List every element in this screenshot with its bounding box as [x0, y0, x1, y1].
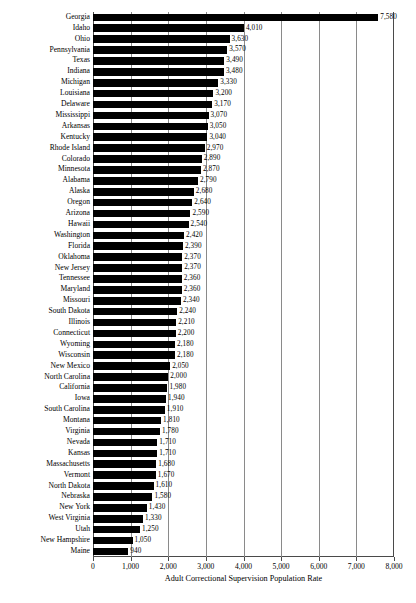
category-label: Illinois: [68, 316, 90, 327]
bar-value-label: 1,780: [162, 426, 179, 437]
bar-row: Delaware3,170: [93, 99, 394, 110]
bar-row: Tennessee2,360: [93, 274, 394, 285]
bar: [93, 319, 176, 327]
bar-value-label: 2,970: [207, 143, 224, 154]
bar-value-label: 3,480: [226, 66, 243, 77]
bar: [93, 79, 218, 87]
category-label: Iowa: [75, 392, 90, 403]
bar-row: Washington2,420: [93, 230, 394, 241]
category-label: New Jersey: [55, 262, 90, 273]
bar: [93, 57, 224, 65]
bar-value-label: 3,330: [220, 77, 237, 88]
x-tick: [131, 557, 132, 561]
category-label: Wyoming: [60, 338, 90, 349]
bar: [93, 548, 128, 556]
bar-value-label: 1,580: [154, 491, 171, 502]
bar-row: New Jersey2,370: [93, 263, 394, 274]
bar-row: Hawaii2,540: [93, 219, 394, 230]
category-label: Virginia: [65, 425, 90, 436]
bar-value-label: 3,040: [209, 132, 226, 143]
bar-value-label: 2,210: [178, 317, 195, 328]
bar-row: Connecticut2,200: [93, 328, 394, 339]
bar: [93, 450, 157, 458]
x-tick: [356, 557, 357, 561]
bar-row: Nebraska1,580: [93, 492, 394, 503]
bar-row: Texas3,490: [93, 56, 394, 67]
x-tick: [319, 557, 320, 561]
bar-value-label: 3,170: [214, 99, 231, 110]
bar-row: Montana1,810: [93, 415, 394, 426]
category-label: Maryland: [60, 283, 90, 294]
category-label: Alabama: [63, 174, 90, 185]
bar: [93, 188, 194, 196]
category-label: Minnesota: [58, 163, 90, 174]
category-label: Idaho: [73, 22, 90, 33]
bar: [93, 90, 213, 98]
bar-row: Oklahoma2,370: [93, 252, 394, 263]
bar-value-label: 1,330: [145, 513, 162, 524]
bar-value-label: 2,180: [177, 339, 194, 350]
bar: [93, 406, 165, 414]
bar-value-label: 3,070: [211, 110, 228, 121]
bar: [93, 286, 182, 294]
bar-row: Minnesota2,870: [93, 165, 394, 176]
bar-value-label: 1,710: [159, 437, 176, 448]
bar-value-label: 2,050: [172, 361, 189, 372]
bar: [93, 264, 182, 272]
bar-value-label: 1,910: [167, 404, 184, 415]
category-label: Kentucky: [60, 131, 90, 142]
bar: [93, 428, 160, 436]
x-tick-label: 3,000: [197, 562, 214, 571]
category-label: Vermont: [64, 469, 90, 480]
category-label: Connecticut: [53, 327, 90, 338]
category-label: Louisiana: [60, 87, 90, 98]
category-label: Mississippi: [55, 109, 90, 120]
category-label: Oklahoma: [58, 251, 90, 262]
bar: [93, 308, 177, 316]
category-label: Arkansas: [62, 120, 90, 131]
bar-row: North Dakota1,610: [93, 481, 394, 492]
x-tick-label: 6,000: [310, 562, 327, 571]
bar: [93, 330, 176, 338]
bar-row: Missouri2,340: [93, 295, 394, 306]
bar-value-label: 2,200: [178, 328, 195, 339]
bar: [93, 351, 175, 359]
bar: [93, 471, 156, 479]
bar-value-label: 1,430: [149, 502, 166, 513]
bar-value-label: 3,570: [229, 44, 246, 55]
bar-row: Virginia1,780: [93, 426, 394, 437]
bar-value-label: 2,340: [183, 295, 200, 306]
bar-row: Arkansas3,050: [93, 121, 394, 132]
bar-value-label: 1,680: [158, 459, 175, 470]
x-tick: [394, 557, 395, 561]
bar-row: California1,980: [93, 383, 394, 394]
bar-row: West Virginia1,330: [93, 513, 394, 524]
bar-row: Wyoming2,180: [93, 339, 394, 350]
x-tick-label: 8,000: [385, 562, 402, 571]
category-label: New Mexico: [51, 360, 90, 371]
category-label: New Hampshire: [40, 534, 90, 545]
x-tick-label: 7,000: [348, 562, 365, 571]
bar: [93, 384, 167, 392]
bar-value-label: 2,180: [177, 350, 194, 361]
bar: [93, 362, 170, 370]
bar: [93, 297, 181, 305]
category-label: Colorado: [62, 153, 90, 164]
bar-value-label: 1,050: [135, 535, 152, 546]
plot-area: Georgia7,580Idaho4,010Ohio3,630Pennsylva…: [93, 12, 394, 557]
bar-row: Colorado2,890: [93, 154, 394, 165]
category-label: Indiana: [67, 65, 90, 76]
bar: [93, 242, 183, 250]
x-tick: [206, 557, 207, 561]
x-axis-title: Adult Correctional Supervision Populatio…: [93, 574, 394, 584]
bar-row: Mississippi3,070: [93, 110, 394, 121]
category-label: North Dakota: [48, 480, 90, 491]
category-label: South Carolina: [44, 403, 90, 414]
x-tick-label: 1,000: [122, 562, 139, 571]
category-label: Nebraska: [61, 490, 90, 501]
category-label: Ohio: [75, 33, 90, 44]
x-tick-label: 2,000: [160, 562, 177, 571]
bar-row: New Mexico2,050: [93, 361, 394, 372]
bar: [93, 515, 143, 523]
bar-value-label: 2,420: [186, 230, 203, 241]
